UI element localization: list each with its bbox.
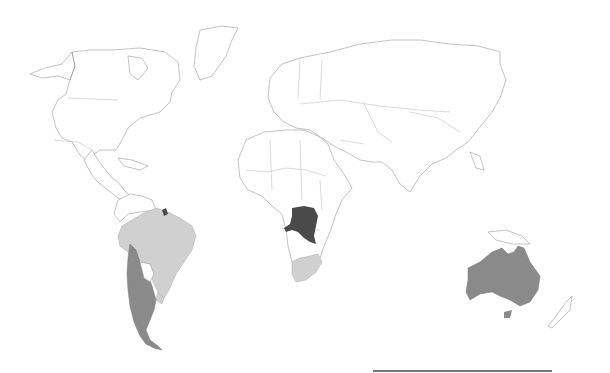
colorbar <box>373 370 552 372</box>
africa <box>238 130 352 282</box>
south-america <box>114 194 196 350</box>
oceania <box>466 230 572 328</box>
region-australia[interactable] <box>466 246 540 306</box>
region-tasmania[interactable] <box>504 310 512 318</box>
north-america <box>30 26 238 202</box>
world-map <box>0 0 610 373</box>
